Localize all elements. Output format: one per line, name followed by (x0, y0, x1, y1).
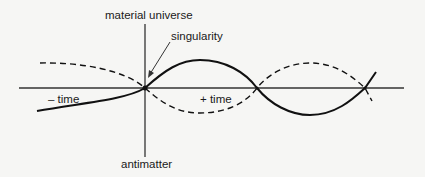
label-positive-time: + time (200, 94, 232, 106)
singularity-arrow (150, 42, 170, 74)
label-antimatter: antimatter (121, 159, 172, 171)
arrowhead-icon (148, 70, 154, 78)
label-singularity: singularity (171, 31, 223, 43)
crossing-point (364, 87, 367, 90)
wave-diagram (0, 0, 425, 177)
crossing-point (256, 87, 259, 90)
singularity-point (143, 86, 148, 91)
label-material-universe: material universe (105, 10, 193, 22)
label-negative-time: – time (48, 94, 79, 106)
